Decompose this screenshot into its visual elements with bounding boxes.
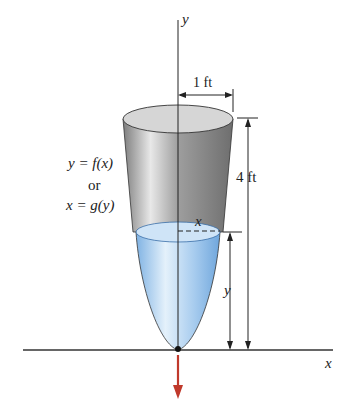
y-axis-label: y bbox=[182, 12, 189, 27]
equation-line-2: or bbox=[88, 178, 101, 193]
equation-line-1: y = f(x) bbox=[68, 156, 113, 171]
height-label: 4 ft bbox=[236, 170, 256, 185]
water-height-label: y bbox=[224, 283, 231, 298]
radius-label: 1 ft bbox=[193, 76, 212, 90]
equation-line-3: x = g(y) bbox=[66, 198, 114, 213]
water-radius-label: x bbox=[195, 214, 202, 229]
tank-diagram bbox=[0, 0, 357, 417]
x-axis-label: x bbox=[325, 356, 332, 371]
